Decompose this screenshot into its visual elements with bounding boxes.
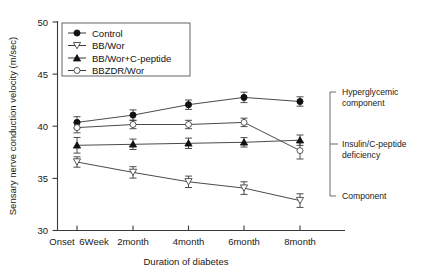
y-tick-label-40: 40 — [37, 121, 48, 132]
legend-label-bbwor: BB/Wor — [92, 40, 125, 51]
markers-bbwor — [73, 159, 303, 204]
error-bars — [74, 92, 304, 207]
annotation-hyperglycemic: Hyperglycemic component — [342, 87, 399, 108]
x-tick-label-8month: 8month — [284, 236, 316, 247]
line-chart-svg: 30 35 40 45 50 Onset 6Week 2month 4month… — [0, 0, 433, 275]
legend-label-control: Control — [92, 28, 123, 39]
annotation-component: Component — [342, 191, 387, 201]
y-tick-labels: 30 35 40 45 50 — [37, 17, 48, 237]
x-tick-label-4month: 4month — [173, 236, 205, 247]
x-tick-label-onset: Onset — [49, 236, 75, 247]
x-tick-label-2month: 2month — [117, 236, 149, 247]
legend-marker-open-circle-icon — [74, 68, 80, 74]
y-tick-label-35: 35 — [37, 173, 48, 184]
chart-legend: Control BB/Wor BB/Wor+C-peptide BBZDR/Wo… — [62, 23, 190, 76]
y-axis-title: Sensary nerve conduction velocity (m/sec… — [7, 37, 18, 215]
y-tick-label-45: 45 — [37, 69, 48, 80]
x-tick-labels: Onset 6Week 2month 4month 6month 8month — [49, 236, 316, 247]
y-tick-label-50: 50 — [37, 17, 48, 28]
legend-marker-filled-circle-icon — [74, 30, 80, 36]
annotation-hyperglycemic-line2: component — [342, 98, 385, 108]
x-axis-title: Duration of diabetes — [143, 256, 228, 267]
y-axis-ticks — [53, 22, 58, 231]
annotation-component-line1: Component — [342, 191, 387, 201]
legend-label-bbzdr-wor: BBZDR/Wor — [92, 65, 144, 76]
annotation-insulin-line1: Insulin/C-peptide — [342, 139, 407, 149]
legend-label-bbwor-cpeptide: BB/Wor+C-peptide — [92, 53, 171, 64]
annotation-bracket — [330, 92, 338, 196]
annotation-insulin-c-peptide: Insulin/C-peptide deficiency — [342, 139, 407, 160]
x-axis-ticks — [77, 226, 300, 231]
annotation-hyperglycemic-line1: Hyperglycemic — [342, 87, 399, 97]
annotation-insulin-line2: deficiency — [342, 150, 381, 160]
x-tick-label-6week: 6Week — [79, 236, 109, 247]
chart-figure: 30 35 40 45 50 Onset 6Week 2month 4month… — [0, 0, 433, 275]
y-tick-label-30: 30 — [37, 225, 48, 236]
x-tick-label-6month: 6month — [228, 236, 260, 247]
